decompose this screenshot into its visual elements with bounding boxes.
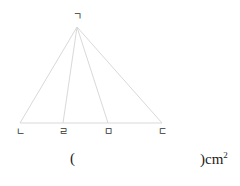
vertex-label-base-1: ㄴ [16, 127, 25, 137]
vertex-label-base-2: ㄹ [59, 127, 68, 137]
answer-open-paren: ( [70, 150, 75, 167]
side-apex-right [77, 27, 162, 123]
cevian-apex-r [63, 27, 77, 123]
vertex-label-base-4: ㄷ [158, 127, 167, 137]
unit-exponent: 2 [223, 150, 228, 160]
vertex-label-apex: ㄱ [73, 12, 82, 22]
side-apex-left [20, 27, 77, 123]
vertex-label-base-3: ㅁ [104, 127, 113, 137]
unit-text: cm [205, 151, 223, 167]
answer-unit: )cm2 [200, 150, 228, 168]
cevian-apex-m [77, 27, 108, 123]
